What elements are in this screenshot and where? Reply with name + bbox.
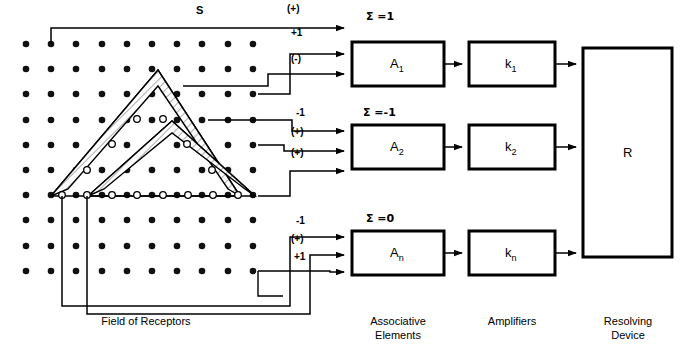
box-label-a2-sub: 2 (399, 147, 404, 157)
receptor-dot (174, 192, 181, 199)
receptor-dot (250, 66, 257, 73)
receptor-dot (250, 217, 257, 224)
receptor-dot (23, 192, 30, 199)
receptor-dot (225, 192, 232, 199)
receptive-field-triangles (51, 70, 255, 196)
receptor-dot (99, 268, 106, 275)
receptor-dot (23, 117, 30, 124)
wire-label-cn-1: (+) (291, 234, 304, 244)
receptor-dot (225, 41, 232, 48)
box-label-k1-sub: 1 (512, 64, 517, 74)
receptor-dot (199, 217, 206, 224)
receptor-dot (73, 117, 80, 124)
receptor-dot (149, 243, 156, 250)
stimulated-receptor-dot (134, 192, 141, 199)
receptor-dot (23, 268, 30, 275)
diagram-canvas (0, 0, 688, 363)
receptor-dot (174, 66, 181, 73)
receptor-dot (250, 91, 257, 98)
receptor-dot (174, 167, 181, 174)
receptor-dot (23, 66, 30, 73)
stimulated-receptor-dot (185, 192, 192, 199)
receptor-dot (23, 142, 30, 149)
caption-associative-elements: Associative Elements (352, 316, 444, 341)
receptor-dot (149, 117, 156, 124)
wire-c2-plus-b (258, 171, 344, 196)
receptor-dot (149, 268, 156, 275)
box-label-a1-text: A (390, 56, 399, 71)
sum-label-channel-2: Σ =-1 (363, 107, 396, 118)
receptor-dot (23, 217, 30, 224)
receptor-dot (225, 268, 232, 275)
receptor-dot (73, 243, 80, 250)
receptor-dot (199, 192, 206, 199)
caption-field-line1: Field of Receptors (56, 316, 236, 327)
receptor-dot (99, 243, 106, 250)
receptor-dot (73, 268, 80, 275)
receptor-dot (225, 142, 232, 149)
receptor-dot (225, 243, 232, 250)
receptor-dot (250, 41, 257, 48)
perceptron-block-diagram: S (+) +1 (-) -1 (+) (+) -1 (+) +1 Σ =1 Σ… (0, 0, 688, 363)
box-label-an-sub: n (399, 253, 404, 263)
wire-cn-plus (87, 196, 344, 314)
receptor-dot (124, 243, 131, 250)
box-label-a2-text: A (390, 139, 399, 154)
receptor-dot (149, 217, 156, 224)
receptor-dot (48, 117, 55, 124)
receptor-dot (48, 217, 55, 224)
caption-amplifiers: Amplifiers (469, 316, 555, 327)
stimulated-receptor-dot (235, 192, 242, 199)
wire-label-c1-0: (+) (287, 4, 300, 14)
receptor-dot (149, 167, 156, 174)
stimulated-receptor-dot (109, 141, 116, 148)
box-label-an-text: A (390, 245, 399, 260)
sum-label-channel-n: Σ =0 (366, 213, 394, 224)
receptor-dot (250, 142, 257, 149)
receptor-dot (174, 217, 181, 224)
receptor-dot (99, 41, 106, 48)
receptor-dot (149, 192, 156, 199)
stimulated-receptor-dot (160, 116, 167, 123)
receptor-dot (99, 167, 106, 174)
box-label-kn: kn (505, 246, 517, 263)
box-label-r: R (623, 146, 632, 159)
box-label-an: An (390, 246, 404, 263)
receptor-dot (99, 117, 106, 124)
stimulated-receptor-dot (134, 116, 141, 123)
receptor-dot (48, 167, 55, 174)
receptor-dot (199, 117, 206, 124)
associative-element-boxes (352, 42, 444, 275)
wire-label-c1-1: +1 (291, 28, 302, 38)
receptor-dot (124, 268, 131, 275)
wire-cn-plus1 (258, 271, 344, 272)
receptor-dot (23, 91, 30, 98)
receptor-dot (99, 192, 106, 199)
receptor-dot (48, 268, 55, 275)
stimulated-receptor-dot (160, 192, 167, 199)
receptor-dot (149, 66, 156, 73)
receptor-dot (23, 41, 30, 48)
receptor-dot (99, 217, 106, 224)
box-label-a1: A1 (390, 57, 404, 74)
receptor-dot (199, 91, 206, 98)
receptor-dot (73, 41, 80, 48)
stimulated-receptor-dot (210, 192, 217, 199)
receptor-dot (124, 142, 131, 149)
receptor-dot (225, 66, 232, 73)
box-label-kn-sub: n (512, 253, 517, 263)
receptor-dot (124, 192, 131, 199)
caption-amp-line1: Amplifiers (469, 316, 555, 327)
wire-label-cn-0: -1 (296, 216, 305, 226)
sum-label-channel-1: Σ =1 (366, 11, 394, 22)
receptor-dot (73, 91, 80, 98)
receptor-dot (250, 167, 257, 174)
receptor-dot (124, 41, 131, 48)
receptor-dot (225, 217, 232, 224)
receptor-dot (124, 217, 131, 224)
caption-field-of-receptors: Field of Receptors (56, 316, 236, 327)
wire-c1-minus (183, 74, 344, 86)
caption-resolve-line2: Device (583, 330, 673, 341)
caption-resolving-device: Resolving Device (583, 316, 673, 341)
wire-label-c2-1: (+) (291, 127, 304, 137)
